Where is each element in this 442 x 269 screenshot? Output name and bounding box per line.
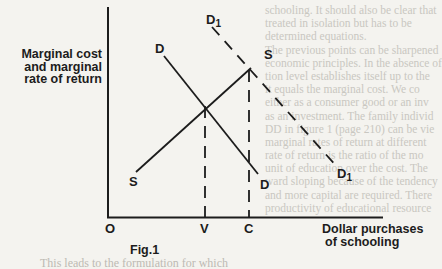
- supply-curve-s: [136, 68, 251, 172]
- y-axis-label: Marginal cost and marginal rate of retur…: [6, 48, 102, 86]
- figure-caption: Fig.1: [130, 243, 159, 257]
- demand-curve-d1: [212, 27, 338, 168]
- x-axis-label: Dollar purchases of schooling: [322, 223, 423, 249]
- origin-label: O: [105, 221, 115, 236]
- label-s-top: S: [264, 47, 273, 62]
- y-label-line: rate of return: [6, 73, 102, 86]
- label-d-top: D: [155, 41, 164, 56]
- label-d1-bottom: D1: [337, 166, 352, 183]
- label-d-bottom: D: [260, 177, 269, 192]
- label-d1-top: D1: [206, 12, 221, 29]
- label-s-bottom: S: [129, 174, 138, 189]
- tick-v: V: [200, 221, 209, 236]
- tick-c: C: [244, 221, 254, 236]
- x-label-line: of schooling: [322, 236, 423, 249]
- y-label-line: Marginal cost: [6, 48, 102, 61]
